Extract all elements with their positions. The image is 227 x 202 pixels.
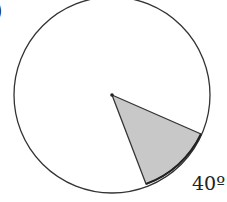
partial-parenthesis: ) bbox=[0, 0, 3, 23]
center-point bbox=[110, 93, 114, 97]
angle-label: 40º bbox=[192, 172, 225, 194]
